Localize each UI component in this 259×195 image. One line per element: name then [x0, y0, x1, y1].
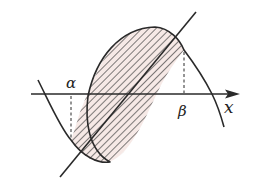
area-diagram: α β x — [0, 0, 259, 195]
alpha-label: α — [66, 74, 76, 92]
x-axis-label: x — [224, 97, 234, 117]
beta-label: β — [177, 102, 187, 120]
